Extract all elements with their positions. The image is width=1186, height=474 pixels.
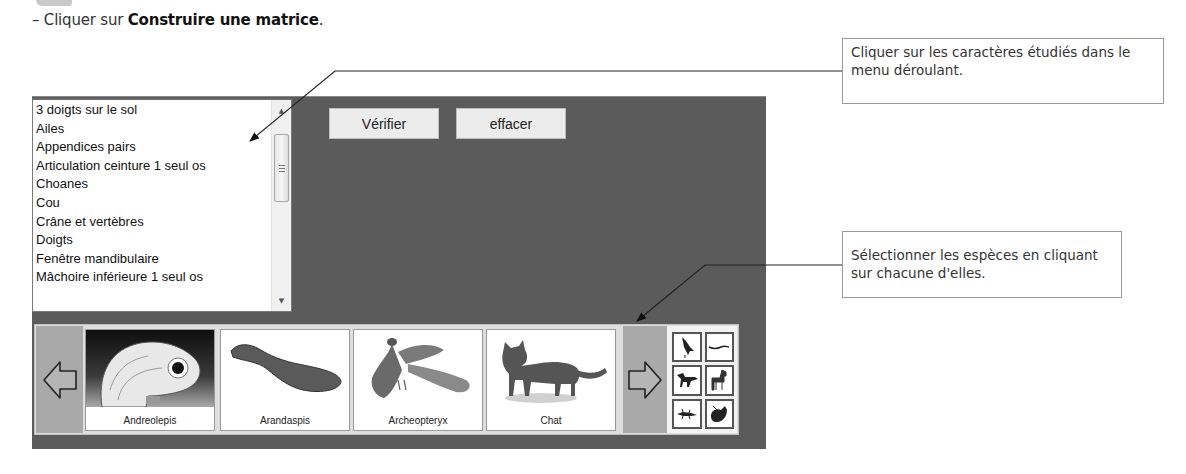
thumbnail-turtle[interactable] — [705, 399, 735, 429]
species-card-andreolepis[interactable]: Andreolepis — [85, 329, 215, 431]
bird-icon — [356, 332, 480, 408]
list-item[interactable]: Choanes — [36, 175, 269, 194]
instruction-emphasis: Construire une matrice — [128, 11, 319, 29]
list-item[interactable]: Articulation ceinture 1 seul os — [36, 157, 269, 176]
fish-head-icon — [86, 330, 214, 407]
callout-text: Cliquer sur les caractères étudiés dans … — [851, 44, 1130, 78]
matrix-builder-panel: 3 doigts sur le sol Ailes Appendices pai… — [32, 96, 766, 449]
turtle-icon — [707, 402, 731, 426]
arrow-right-icon — [627, 358, 663, 402]
grip-icon — [279, 165, 285, 172]
instruction-suffix: . — [319, 11, 324, 29]
list-item[interactable]: Appendices pairs — [36, 138, 269, 157]
bird-icon — [676, 335, 698, 359]
species-thumbnail-grid — [667, 326, 737, 433]
arrow-left-icon — [42, 358, 78, 402]
instruction-prefix: – Cliquer sur — [32, 11, 128, 29]
jawless-fish-icon — [223, 332, 347, 408]
listbox-scrollbar[interactable]: ▲ ▼ — [271, 100, 291, 311]
callout-species: Sélectionner les espèces en cliquant sur… — [842, 231, 1122, 298]
list-item[interactable]: Crâne et vertèbres — [36, 213, 269, 232]
list-item[interactable]: Cou — [36, 194, 269, 213]
thumbnail-bird[interactable] — [672, 332, 702, 362]
verify-button[interactable]: Vérifier — [329, 108, 439, 139]
horse-icon — [708, 368, 730, 392]
next-species-button[interactable] — [623, 326, 667, 433]
species-card-archeopteryx[interactable]: Archeopteryx — [353, 329, 483, 431]
scroll-down-icon[interactable]: ▼ — [272, 292, 291, 309]
species-carousel: Andreolepis Arandaspis Archeopteryx — [34, 324, 739, 435]
scroll-up-icon[interactable]: ▲ — [272, 102, 291, 119]
thumbnail-horse[interactable] — [705, 365, 735, 395]
species-name: Arandaspis — [221, 415, 349, 426]
list-item[interactable]: 3 doigts sur le sol — [36, 101, 269, 120]
scroll-thumb[interactable] — [274, 134, 289, 202]
species-name: Archeopteryx — [354, 415, 482, 426]
characters-listbox[interactable]: 3 doigts sur le sol Ailes Appendices pai… — [32, 98, 292, 312]
lizard-icon — [675, 405, 699, 423]
snake-icon — [707, 337, 731, 357]
instruction-text: – Cliquer sur Construire une matrice. — [32, 11, 323, 29]
species-card-chat[interactable]: Chat — [486, 329, 616, 431]
dinosaur-icon — [675, 369, 699, 391]
callout-characters: Cliquer sur les caractères étudiés dans … — [842, 38, 1164, 104]
callout-text: Sélectionner les espèces en cliquant sur… — [851, 247, 1098, 281]
characters-list: 3 doigts sur le sol Ailes Appendices pai… — [36, 101, 269, 287]
previous-species-button[interactable] — [36, 326, 83, 433]
list-item[interactable]: Doigts — [36, 231, 269, 250]
thumbnail-snake[interactable] — [705, 332, 735, 362]
decorative-shape — [36, 0, 72, 6]
species-name: Andreolepis — [86, 415, 214, 426]
clear-button[interactable]: effacer — [456, 108, 566, 139]
species-name: Chat — [487, 415, 615, 426]
list-item[interactable]: Fenêtre mandibulaire — [36, 250, 269, 269]
list-item[interactable]: Mâchoire inférieure 1 seul os — [36, 268, 269, 287]
species-card-arandaspis[interactable]: Arandaspis — [220, 329, 350, 431]
thumbnail-dinosaur[interactable] — [672, 365, 702, 395]
cat-icon — [489, 332, 613, 408]
list-item[interactable]: Ailes — [36, 120, 269, 139]
thumbnail-lizard[interactable] — [672, 399, 702, 429]
